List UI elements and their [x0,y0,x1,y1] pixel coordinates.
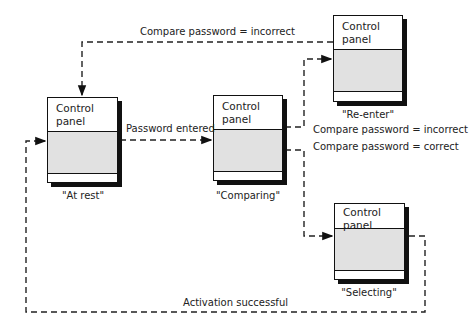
edge-label-compare-correct: Compare password = correct [313,141,459,152]
panel-screen [334,50,402,92]
state-at-rest: Controlpanel [47,97,118,183]
panel-title: Controlpanel [334,16,402,50]
panel-title: Controlpanel [335,204,404,229]
edge-label-password-entered: Password entered [126,123,215,134]
arrow-reenter-to-atrest [82,42,333,95]
edge-label-compare-incorrect-1: Compare password = incorrect [313,124,468,135]
state-re-enter: Controlpanel [333,15,403,102]
edge-label-compare-incorrect-2: Compare password = incorrect [140,26,295,37]
panel-title: Controlpanel [48,98,117,132]
state-label-comparing: "Comparing" [203,190,293,201]
edge-label-activation-successful: Activation successful [183,297,288,308]
state-comparing: Controlpanel [213,95,283,181]
panel-screen [335,229,404,271]
state-label-selecting: "Selecting" [324,287,414,298]
panel-title: Controlpanel [214,96,282,130]
panel-screen [214,130,282,172]
state-selecting: Controlpanel [334,203,405,280]
state-label-re-enter: "Re-enter" [323,109,413,120]
state-label-at-rest: "At rest" [38,190,128,201]
panel-screen [48,132,117,174]
